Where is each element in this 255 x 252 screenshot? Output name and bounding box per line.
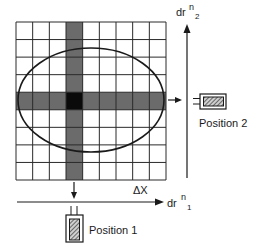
highlighted-bands <box>16 22 166 180</box>
vertical-axis <box>184 24 191 178</box>
horizontal-axis <box>17 199 164 206</box>
position-1-label: Position 1 <box>89 224 137 236</box>
arrow-right-icon <box>168 97 182 103</box>
intersection-cell <box>66 92 83 110</box>
position-2-label: Position 2 <box>199 117 247 129</box>
detector-icon <box>193 94 226 109</box>
diagram-canvas: ΔX dr n 1 dr n 2 Position 1 <box>0 0 255 252</box>
detector-icon <box>66 206 83 242</box>
svg-text:n: n <box>181 192 186 202</box>
svg-text:dr: dr <box>167 197 177 209</box>
svg-text:dr: dr <box>176 6 186 18</box>
svg-text:n: n <box>189 2 194 12</box>
svg-text:1: 1 <box>187 203 192 212</box>
vertical-axis-label: dr n 2 <box>176 2 200 21</box>
horizontal-axis-label: dr n 1 <box>167 192 192 212</box>
highlighted-row <box>16 92 166 110</box>
svg-text:2: 2 <box>195 12 200 21</box>
arrow-down-icon <box>71 182 77 199</box>
delta-x-label: ΔX <box>133 184 148 196</box>
